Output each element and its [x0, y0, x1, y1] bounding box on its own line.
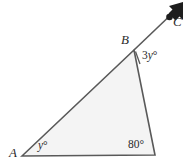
vertex-label-a: A: [9, 146, 17, 159]
angle-a-degree: °: [43, 139, 48, 151]
vertex-label-c: C: [173, 15, 182, 28]
angle-label-at-a: y°: [38, 140, 48, 152]
angle-label-at-bottom-right: 80°: [128, 139, 144, 151]
vertex-label-b: B: [121, 33, 129, 46]
geometry-figure: A B C y° 3y° 80°: [0, 0, 190, 168]
angle-b-degree: °: [153, 49, 158, 61]
angle-label-exterior-at-b: 3y°: [142, 50, 157, 62]
point-marker-c: [166, 14, 173, 21]
figure-canvas: [0, 0, 190, 168]
